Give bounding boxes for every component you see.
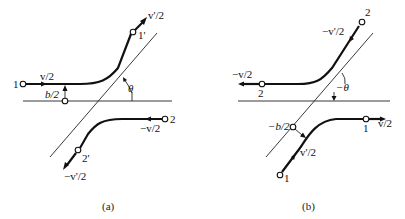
node-2-top <box>359 19 365 25</box>
label-node-2: 2 <box>170 113 176 125</box>
impact-origin-node-a <box>62 98 68 104</box>
node-1 <box>20 81 26 87</box>
label-neg-theta: −θ <box>336 81 349 93</box>
angle-arrow-down-icon <box>332 96 337 101</box>
arrow-neg-v-out-icon <box>238 82 244 87</box>
arrow-v-in-icon <box>41 82 47 87</box>
panel-a: 1 v/2 b/2 1' v'/2 θ 2 −v/2 2' −v'/2 (a) <box>13 9 176 213</box>
caption-a: (a) <box>102 200 115 213</box>
angle-arrow-icon <box>123 77 127 82</box>
node-1-right <box>363 116 369 122</box>
label-theta: θ <box>128 82 134 94</box>
label-neg-impact-b: −b/2 <box>268 120 290 132</box>
label-node-2-prime: 2' <box>82 152 90 164</box>
panel-b: 2 −v'/2 −v/2 2 −θ −b/2 1 v/2 v'/2 1 (b) <box>232 6 392 213</box>
node-2 <box>162 116 168 122</box>
scattering-diagram: 1 v/2 b/2 1' v'/2 θ 2 −v/2 2' −v'/2 (a) <box>0 0 405 219</box>
label-neg-v-prime: −v'/2 <box>322 25 344 37</box>
node-1-bottom <box>277 172 283 178</box>
symmetry-line-b <box>266 33 373 157</box>
label-neg-v-out: −v'/2 <box>64 170 86 182</box>
impact-arrow-shaft-b <box>295 129 302 135</box>
label-v-prime: v'/2 <box>300 146 316 158</box>
node-2-left <box>259 81 265 87</box>
label-node-2-left: 2 <box>258 87 264 99</box>
symmetry-line-a <box>50 33 157 157</box>
label-neg-v-in: −v/2 <box>140 122 160 134</box>
label-node-2-top: 2 <box>365 6 371 18</box>
label-v-in: v/2 <box>40 70 54 82</box>
impact-arrow-icon <box>63 85 68 91</box>
impact-origin-node-b <box>290 124 296 130</box>
outgoing-arrow-shaft-lower-a <box>67 153 76 165</box>
label-neg-v: −v/2 <box>232 68 252 80</box>
label-node-1-prime: 1' <box>138 29 146 41</box>
node-2-prime <box>75 147 81 153</box>
arrow-neg-v-in-icon <box>145 117 151 122</box>
label-node-1-right: 1 <box>363 122 369 134</box>
node-1-prime <box>130 29 136 35</box>
impact-arrow-icon-b <box>300 133 306 139</box>
label-impact-b: b/2 <box>45 88 60 100</box>
label-v: v/2 <box>378 117 392 129</box>
caption-b: (b) <box>302 200 315 213</box>
label-v-out: v'/2 <box>148 9 164 21</box>
label-node-1: 1 <box>13 78 19 90</box>
label-node-1-bottom: 1 <box>284 172 290 184</box>
